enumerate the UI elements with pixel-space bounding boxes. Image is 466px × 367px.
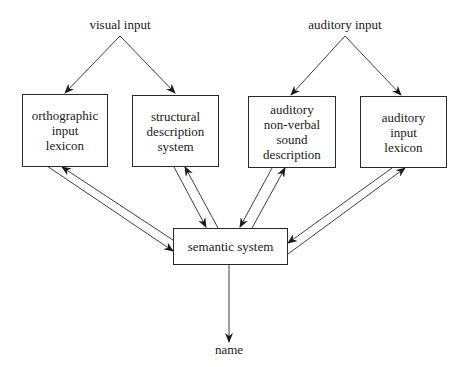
auditory-non-verbal-sound-description-box: auditory non-verbal sound description: [248, 96, 336, 168]
box-line: non-verbal: [263, 117, 321, 132]
arrow-visual-to-orthographic: [65, 36, 120, 93]
box-line: auditory: [263, 102, 321, 117]
arrow-orthographic-to-semantic: [47, 166, 173, 251]
arrow-auditory-to-nonverbal: [291, 36, 345, 95]
box-line: description: [147, 124, 205, 139]
arrow-lexicon-to-semantic: [288, 168, 392, 243]
arrow-semantic-to-lexicon: [288, 168, 405, 254]
connector-arrows: [0, 0, 466, 367]
box-line: structural: [147, 109, 205, 124]
box-line: system: [147, 139, 205, 154]
box-line: lexicon: [382, 140, 425, 155]
semantic-system-label: semantic system: [188, 239, 274, 254]
box-line: lexicon: [32, 138, 98, 153]
arrow-visual-to-structural: [120, 36, 175, 93]
box-line: sound: [263, 132, 321, 147]
orthographic-input-lexicon-box: orthographic input lexicon: [22, 94, 108, 167]
box-line: auditory: [382, 110, 425, 125]
box-line: orthographic: [32, 108, 98, 123]
box-line: input: [32, 123, 98, 138]
arrow-nonverbal-to-semantic: [240, 168, 272, 227]
auditory-input-label: auditory input: [308, 17, 381, 32]
arrow-auditory-to-lexicon: [345, 36, 401, 95]
arrow-semantic-to-orthographic: [62, 167, 173, 240]
auditory-input-lexicon-box: auditory input lexicon: [360, 96, 447, 168]
box-line: input: [382, 125, 425, 140]
semantic-system-box: semantic system: [173, 228, 288, 265]
structural-description-system-box: structural description system: [132, 95, 219, 167]
name-output-label: name: [215, 342, 243, 357]
visual-input-label: visual input: [89, 17, 150, 32]
arrow-semantic-to-nonverbal: [252, 168, 285, 228]
box-line: description: [263, 147, 321, 162]
